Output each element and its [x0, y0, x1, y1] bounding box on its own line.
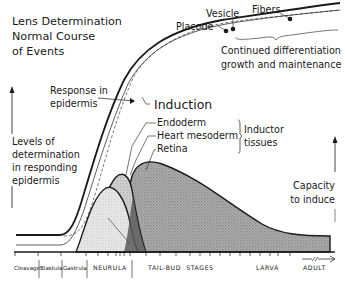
- vesicle-label: Vesicle: [206, 8, 239, 19]
- left-axis-label-line-4: epidermis: [12, 175, 59, 186]
- placode-pointer: [218, 26, 225, 30]
- induction-bracket: [142, 97, 150, 104]
- left-axis-label-line-1: Levels of: [12, 136, 55, 147]
- stage-label-tail-bud: TAIL-BUD STAGES: [147, 264, 214, 271]
- response-arrowhead: [130, 98, 135, 104]
- placode-label: Placode: [176, 21, 214, 32]
- stage-label-neurula: NEURULA: [93, 264, 127, 271]
- right-axis-label-line-1: Capacity: [293, 180, 335, 191]
- continued-label-line-1: Continued differentiation: [221, 45, 341, 56]
- left-axis-label-line-3: in responding: [12, 162, 77, 173]
- stage-label-larva: LARVA: [256, 264, 279, 271]
- continued-label-line-2: growth and maintenance: [221, 59, 341, 70]
- fibers-label: Fibers: [252, 4, 280, 15]
- title-line-2: Normal Course: [12, 30, 95, 43]
- right-axis-label-line-2: to induce: [290, 194, 335, 205]
- inductor-group-label-line-2: tissues: [244, 137, 277, 148]
- stage-label-adult: ADULT: [303, 264, 326, 271]
- continued-brace: [236, 30, 338, 40]
- title-line-3: of Events: [12, 45, 64, 58]
- inductor-retina-label: Retina: [157, 143, 188, 154]
- title-line-1: Lens Determination: [12, 15, 122, 28]
- induction-label: Induction: [154, 97, 212, 112]
- left-axis-arrowhead: [10, 86, 15, 93]
- left-axis-label-line-2: determination: [12, 149, 80, 160]
- right-axis-arrowhead: [333, 136, 338, 143]
- retina-induction-curve: [116, 162, 330, 252]
- inductor-brace: [238, 120, 242, 153]
- stage-label-blastula: Blastula: [40, 265, 62, 271]
- response-label-line-1: Response in: [50, 85, 108, 96]
- lens-determination-diagram: Lens Determination Normal Course of Even…: [0, 0, 345, 282]
- adult-arrow: [302, 256, 335, 262]
- response-label-line-2: epidermis: [50, 98, 97, 109]
- stage-label-gastrula: Gastrula: [63, 265, 87, 271]
- stage-label-cleavage: Cleavage: [14, 265, 41, 272]
- inductor-group-label-line-1: Inductor: [244, 124, 284, 135]
- inductor-heart-mesoderm-label: Heart mesoderm: [157, 130, 238, 141]
- inductor-endoderm-label: Endoderm: [157, 117, 206, 128]
